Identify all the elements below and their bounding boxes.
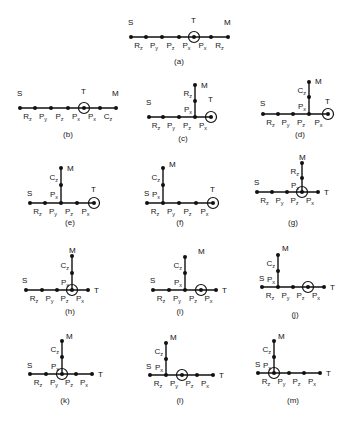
segment-label: Py (281, 118, 289, 128)
node (211, 201, 215, 205)
end-label: M (112, 89, 119, 98)
segment-label: Rz (33, 207, 42, 217)
node (24, 288, 28, 292)
segment-label: Rz (154, 379, 163, 389)
node (60, 372, 64, 376)
node (82, 106, 86, 110)
node (161, 183, 165, 187)
segment-label: Px (76, 294, 84, 304)
node (75, 201, 79, 205)
node (195, 373, 199, 377)
node (59, 183, 63, 187)
node (285, 190, 289, 194)
segment-label: Rz (262, 377, 271, 387)
end-label: M (282, 244, 289, 253)
node (307, 95, 311, 99)
node (55, 288, 59, 292)
figure-m: PxCzRzPyPzPxSTM(m) (255, 332, 331, 405)
segment-label: Py (173, 294, 181, 304)
segment-label: Py (170, 379, 178, 389)
segment-label: Px (81, 207, 89, 217)
segment-label: Px (182, 41, 190, 51)
node (272, 355, 276, 359)
source-label: S (254, 178, 259, 187)
node (300, 190, 304, 194)
source-label: S (146, 362, 151, 371)
target-label: T (219, 371, 224, 380)
segment-label: Pz (60, 294, 68, 304)
node (193, 83, 197, 87)
diagram-canvas: RzPyPzPxPxRzSTM(a)RzPyPzPxPxCzSTM(b)PxRz… (0, 0, 353, 421)
figure-caption: (e) (65, 218, 75, 227)
end-label: M (169, 160, 176, 169)
end-label: M (315, 77, 322, 86)
vertical-segment-label: Px (50, 190, 58, 200)
node (86, 288, 90, 292)
segment-label: Pz (65, 207, 73, 217)
node (261, 112, 265, 116)
node (193, 99, 197, 103)
node (66, 106, 70, 110)
node (183, 271, 187, 275)
node (276, 285, 280, 289)
target-label: T (222, 286, 227, 295)
node (272, 339, 276, 343)
figure-g: PxRzRzPyPzPxSTM(g) (254, 153, 329, 227)
segment-label: Pz (296, 291, 304, 301)
target-label: T (208, 95, 213, 104)
node (129, 35, 133, 39)
node (322, 285, 326, 289)
segment-label: Pz (189, 294, 197, 304)
node (148, 373, 152, 377)
node (260, 285, 264, 289)
segment-label: Rz (30, 294, 39, 304)
segment-label: Py (150, 41, 158, 51)
segment-label: Px (201, 379, 209, 389)
target-label: T (210, 185, 215, 194)
source-label: S (27, 189, 32, 198)
vertical-segment-label: Cz (49, 173, 58, 183)
segment-label: Cz (104, 112, 113, 122)
node (192, 35, 196, 39)
segment-label: Pz (166, 41, 174, 51)
node (276, 269, 280, 273)
target-label: T (98, 370, 103, 379)
source-label: S (22, 276, 27, 285)
target-label: T (324, 188, 329, 197)
node (291, 285, 295, 289)
segment-label: Pz (292, 377, 300, 387)
segment-label: Px (199, 121, 207, 131)
segment-label: Rz (260, 196, 269, 206)
vertical-segment-label: Px (155, 363, 163, 373)
vertical-segment-label: Rz (183, 89, 192, 99)
figure-k: PxCzRzPyPzPxSTM(k) (27, 332, 103, 405)
node (255, 190, 259, 194)
node (60, 355, 64, 359)
segment-label: Py (167, 121, 175, 131)
segment-label: Py (277, 377, 285, 387)
segment-label: Rz (151, 207, 160, 217)
end-label: M (299, 153, 306, 162)
end-label: M (198, 247, 205, 256)
vertical-segment-label: Px (184, 105, 192, 115)
vertical-segment-label: Px (174, 278, 182, 288)
target-label: T (325, 97, 330, 106)
segment-label: Px (308, 377, 316, 387)
segment-label: Rz (157, 294, 166, 304)
node (318, 371, 322, 375)
segment-label: Px (198, 41, 206, 51)
segment-label: Pz (185, 379, 193, 389)
node (164, 341, 168, 345)
node (183, 288, 187, 292)
node (211, 373, 215, 377)
figure-e: PxCzRzPyPzPxSTM(e) (27, 164, 100, 227)
segment-label: Rz (23, 112, 32, 122)
node (98, 106, 102, 110)
figure-d: PxCzRzPyPzPxSTM(d) (260, 77, 334, 139)
node (40, 288, 44, 292)
node (18, 106, 22, 110)
vertical-segment-label: Cz (266, 259, 275, 269)
figure-c: PxRzRzPyPzPxSTM(c) (146, 81, 217, 143)
segment-label: Px (72, 112, 80, 122)
segment-label: Py (275, 196, 283, 206)
